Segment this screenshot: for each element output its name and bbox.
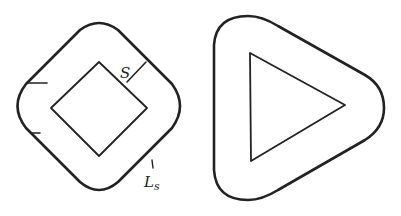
length-label-sub: s bbox=[154, 180, 160, 193]
length-label-main: L bbox=[143, 173, 154, 191]
figure-rounded-triangle bbox=[214, 16, 384, 200]
outer-rounded-diamond bbox=[18, 23, 181, 190]
spacing-label: S bbox=[120, 64, 130, 82]
diagram-canvas: S Ls bbox=[0, 0, 401, 216]
figure-rounded-square bbox=[18, 23, 181, 190]
outer-rounded-triangle bbox=[214, 16, 384, 200]
length-tick bbox=[152, 160, 153, 168]
length-label: Ls bbox=[143, 173, 160, 193]
inner-triangle bbox=[250, 53, 345, 161]
